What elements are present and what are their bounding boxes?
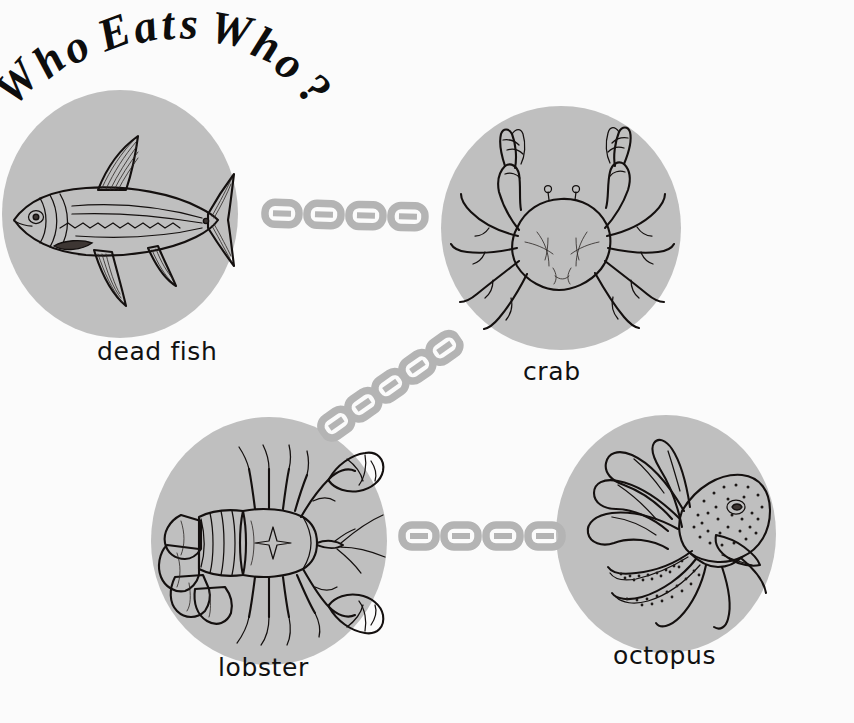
chain-link xyxy=(402,525,436,547)
chain-link xyxy=(349,204,384,227)
title-letter: h xyxy=(245,16,288,73)
title-letter: o xyxy=(267,35,314,90)
chain-link xyxy=(486,525,520,547)
fish-illustration xyxy=(2,90,238,338)
connector-fish-to-crab xyxy=(261,196,438,234)
title-letter: W xyxy=(206,1,258,59)
label-crab: crab xyxy=(523,357,581,386)
chain-link xyxy=(307,203,342,226)
label-lobster: lobster xyxy=(218,653,309,682)
chain-link xyxy=(391,205,426,228)
who-eats-who-diagram: W h o E a t s W h o ? xyxy=(0,0,854,723)
label-octopus: octopus xyxy=(613,641,716,670)
title-letter: E xyxy=(89,3,137,62)
node-octopus[interactable] xyxy=(556,415,776,653)
connector-crab-to-lobster xyxy=(311,323,470,448)
chain-link xyxy=(265,202,300,225)
title-letter: ? xyxy=(289,63,341,116)
title-letter: a xyxy=(128,0,162,54)
title-letter: t xyxy=(159,0,178,50)
chain-link xyxy=(528,525,562,547)
lobster-illustration xyxy=(151,417,387,665)
connector-lobster-to-octopus xyxy=(398,519,576,553)
title-letter: o xyxy=(53,19,98,75)
title-letter: h xyxy=(23,32,75,88)
node-lobster[interactable] xyxy=(151,417,387,665)
title-letter: s xyxy=(179,0,198,49)
label-dead-fish: dead fish xyxy=(97,337,217,366)
node-crab[interactable] xyxy=(441,106,681,350)
chain-link xyxy=(444,525,478,547)
octopus-illustration xyxy=(556,415,776,653)
crab-illustration xyxy=(441,106,681,350)
node-dead-fish[interactable] xyxy=(2,90,238,338)
